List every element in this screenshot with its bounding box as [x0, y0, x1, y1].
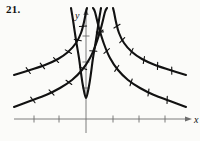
curve-hash-mark — [143, 57, 144, 64]
curve-hash-mark — [79, 26, 86, 27]
y-axis-label: y — [74, 10, 80, 21]
axes-group — [14, 8, 192, 133]
curve-family-b-right-branch — [113, 8, 186, 75]
curve-hash-mark — [90, 51, 97, 52]
graph-canvas: x y — [0, 0, 200, 141]
curve-hash-mark — [148, 89, 149, 96]
curves-group — [14, 8, 186, 107]
figure-container: 21. x y — [0, 0, 200, 141]
x-axis-arrow — [185, 116, 192, 121]
x-axis-label: x — [193, 114, 199, 125]
